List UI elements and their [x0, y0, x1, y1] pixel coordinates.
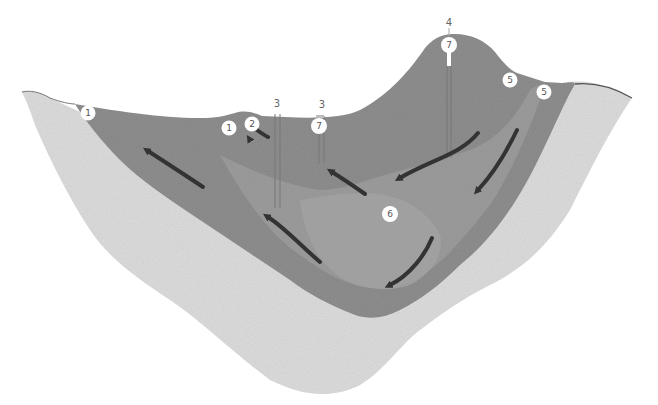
circle-label-7a: 7 — [311, 118, 327, 134]
circle-label-6: 6 — [382, 206, 398, 222]
label-4: 4 — [446, 17, 452, 28]
circle-label-5a: 5 — [503, 73, 518, 88]
svg-text:5: 5 — [507, 75, 513, 85]
well-3b-cap — [316, 115, 324, 118]
svg-text:1: 1 — [226, 123, 232, 133]
svg-text:1: 1 — [85, 108, 91, 118]
label-3b: 3 — [319, 99, 325, 110]
circle-label-1b: 1 — [222, 121, 237, 136]
svg-text:7: 7 — [446, 40, 452, 50]
circle-label-1a: 1 — [81, 106, 96, 121]
circle-label-2: 2 — [245, 117, 260, 132]
diagram-canvas: 3 3 4 1 1 2 7 7 5 — [0, 0, 658, 405]
label-3a: 3 — [274, 98, 280, 109]
svg-text:7: 7 — [316, 121, 322, 131]
svg-text:5: 5 — [541, 87, 547, 97]
groundwater-cross-section-diagram: 3 3 4 1 1 2 7 7 5 — [0, 0, 658, 405]
svg-text:2: 2 — [249, 119, 255, 129]
circle-label-5b: 5 — [537, 85, 552, 100]
circle-label-7b: 7 — [441, 37, 457, 53]
svg-text:6: 6 — [387, 209, 393, 219]
